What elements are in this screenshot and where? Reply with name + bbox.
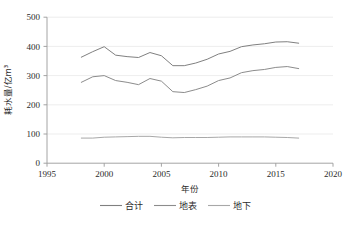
y-tick-label-0: 0	[36, 158, 41, 168]
y-tick-label-500: 500	[27, 12, 41, 22]
y-axis: 500 400 300 200 100 0	[27, 12, 48, 168]
y-tick-label-300: 300	[27, 71, 41, 81]
gridlines	[47, 17, 333, 134]
y-tick-label-200: 200	[27, 100, 41, 110]
x-tick-label-2000: 2000	[95, 169, 114, 179]
series-lines	[81, 42, 298, 138]
x-axis: 1995 2000 2005 2010 2015 2020	[38, 163, 343, 179]
y-axis-title: 耗水量/亿m³	[3, 65, 13, 116]
x-tick-label-2020: 2020	[324, 169, 343, 179]
x-tick-label-2010: 2010	[210, 169, 229, 179]
series-line-groundwater	[81, 136, 298, 138]
legend-label-surface: 地表	[179, 200, 197, 211]
x-axis-title: 年份	[181, 184, 199, 194]
y-tick-label-100: 100	[27, 129, 41, 139]
x-tick-label-2005: 2005	[152, 169, 171, 179]
chart-container: 500 400 300 200 100 0 1995 2000 2005 201…	[0, 0, 346, 225]
x-tick-label-1995: 1995	[38, 169, 57, 179]
series-line-surface	[81, 67, 298, 93]
legend-label-groundwater: 地下	[233, 200, 251, 211]
line-chart: 500 400 300 200 100 0 1995 2000 2005 201…	[0, 0, 346, 225]
legend: 合计 地表 地下	[100, 200, 251, 211]
x-tick-label-2015: 2015	[267, 169, 286, 179]
series-line-total	[81, 42, 298, 66]
y-tick-label-400: 400	[27, 42, 41, 52]
legend-label-total: 合计	[125, 200, 143, 211]
